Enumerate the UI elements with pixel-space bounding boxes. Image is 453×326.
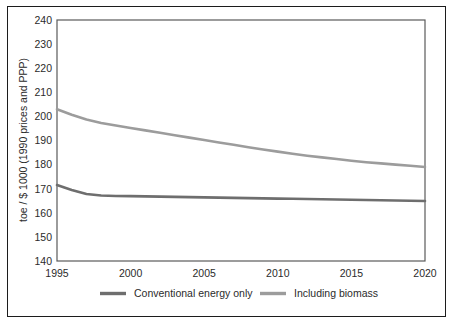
line-chart: toe / $ 1000 (1990 prices and PPP) 14015… [0, 0, 453, 326]
x-tick-label: 1995 [45, 267, 69, 279]
x-tick-label: 2000 [119, 267, 143, 279]
series-lines [57, 109, 425, 201]
y-axis-title: toe / $ 1000 (1990 prices and PPP) [17, 58, 29, 222]
y-tick-label: 160 [34, 207, 52, 219]
y-tick-label: 150 [34, 231, 52, 243]
x-axis-tick-labels: 199520002005201020152020 [45, 267, 437, 279]
y-tick-label: 180 [34, 158, 52, 170]
legend-label-2: Including biomass [294, 287, 378, 299]
y-tick-label: 210 [34, 86, 52, 98]
x-tick-label: 2020 [413, 267, 437, 279]
y-axis-tick-labels: 140150160170180190200210220230240 [34, 14, 52, 267]
y-tick-label: 190 [34, 134, 52, 146]
y-tick-label: 220 [34, 62, 52, 74]
y-tick-label: 140 [34, 255, 52, 267]
x-tick-label: 2005 [193, 267, 217, 279]
y-tick-label: 170 [34, 183, 52, 195]
chart-legend: Conventional energy onlyIncluding biomas… [100, 287, 378, 299]
plot-area-frame [57, 20, 425, 261]
series-line-2 [57, 109, 425, 167]
legend-label-1: Conventional energy only [134, 287, 253, 299]
y-tick-label: 230 [34, 38, 52, 50]
chart-figure: toe / $ 1000 (1990 prices and PPP) 14015… [0, 0, 453, 326]
x-tick-label: 2015 [340, 267, 364, 279]
y-tick-label: 240 [34, 14, 52, 26]
y-axis-title-label: toe / $ 1000 (1990 prices and PPP) [17, 58, 29, 222]
x-tick-label: 2010 [266, 267, 290, 279]
y-tick-label: 200 [34, 110, 52, 122]
series-line-1 [57, 185, 425, 201]
